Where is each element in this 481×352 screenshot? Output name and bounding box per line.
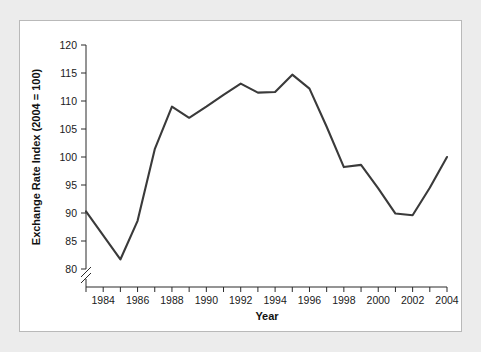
x-axis-tick-labels: 1984198619881990199219941996199820002002… <box>92 294 459 306</box>
y-tick-label: 90 <box>65 207 77 219</box>
x-tick-label: 1992 <box>229 294 253 306</box>
data-series-line <box>86 75 447 260</box>
y-tick-label: 85 <box>65 235 77 247</box>
x-tick-label: 2002 <box>401 294 425 306</box>
y-tick-label: 95 <box>65 179 77 191</box>
y-axis-title: Exchange Rate Index (2004 = 100) <box>30 68 42 245</box>
x-tick-label: 2004 <box>435 294 459 306</box>
x-tick-label: 1998 <box>332 294 356 306</box>
y-tick-label: 105 <box>59 123 77 135</box>
x-axis-title: Year <box>255 310 279 322</box>
x-axis-ticks <box>86 287 447 292</box>
y-axis-ticks: 80859095100105110115120 <box>59 39 86 275</box>
y-tick-label: 120 <box>59 39 77 51</box>
x-tick-label: 1988 <box>160 294 184 306</box>
y-tick-label: 115 <box>60 67 77 79</box>
y-tick-label: 110 <box>60 95 77 107</box>
x-tick-label: 1996 <box>298 294 322 306</box>
chart-card: 80859095100105110115120 1984198619881990… <box>19 20 462 332</box>
x-tick-label: 2000 <box>367 294 391 306</box>
x-tick-label: 1994 <box>263 294 287 306</box>
line-chart: 80859095100105110115120 1984198619881990… <box>20 21 461 331</box>
x-tick-label: 1986 <box>126 294 150 306</box>
x-tick-label: 1984 <box>92 294 116 306</box>
figure-root: 80859095100105110115120 1984198619881990… <box>0 0 481 352</box>
y-tick-label: 100 <box>59 151 77 163</box>
y-tick-label: 80 <box>65 263 77 275</box>
x-tick-label: 1990 <box>195 294 219 306</box>
